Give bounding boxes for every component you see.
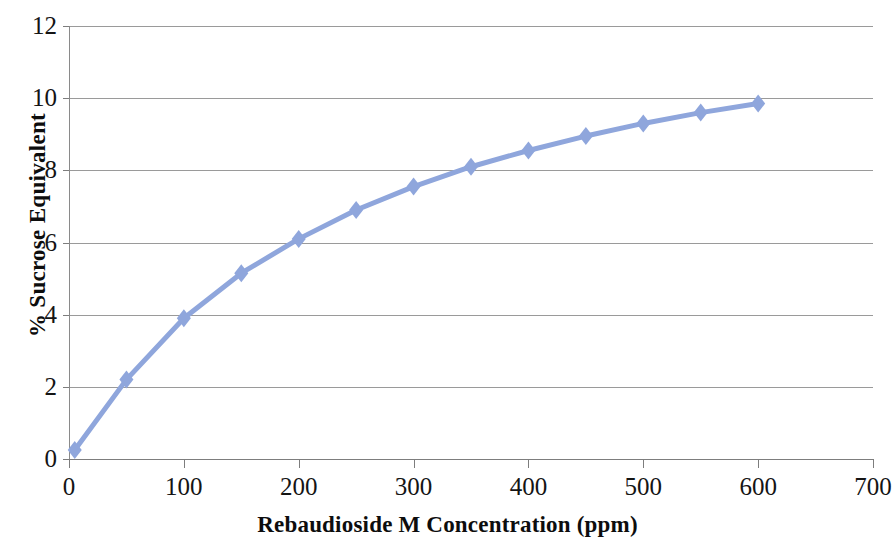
x-tick-200	[299, 460, 300, 468]
x-tick-label-300: 300	[369, 474, 459, 499]
x-tick-label-500: 500	[598, 474, 688, 499]
x-tick-label-600: 600	[713, 474, 803, 499]
x-tick-400	[528, 460, 529, 468]
x-tick-label-400: 400	[483, 474, 573, 499]
gridline-y-2	[69, 387, 873, 388]
x-tick-0	[69, 460, 70, 468]
x-tick-300	[414, 460, 415, 468]
y-axis-line	[69, 26, 70, 459]
plot-area	[69, 26, 873, 459]
y-axis-title: % Sucrose Equivalent	[25, 15, 51, 435]
x-tick-label-100: 100	[139, 474, 229, 499]
x-axis-title: Rebaudioside M Concentration (ppm)	[0, 512, 895, 538]
x-tick-700	[873, 460, 874, 468]
y-tick-label-0: 0	[2, 446, 57, 471]
x-tick-600	[758, 460, 759, 468]
sucrose-equivalent-line-chart: 024681012 0100200300400500600700 % Sucro…	[0, 0, 895, 550]
x-tick-label-0: 0	[24, 474, 114, 499]
gridline-y-12	[69, 26, 873, 27]
x-tick-label-700: 700	[828, 474, 895, 499]
gridline-y-6	[69, 243, 873, 244]
gridline-y-10	[69, 98, 873, 99]
x-axis-line	[69, 459, 874, 460]
gridline-y-4	[69, 315, 873, 316]
x-tick-100	[184, 460, 185, 468]
gridline-y-8	[69, 170, 873, 171]
x-tick-label-200: 200	[254, 474, 344, 499]
x-tick-500	[643, 460, 644, 468]
